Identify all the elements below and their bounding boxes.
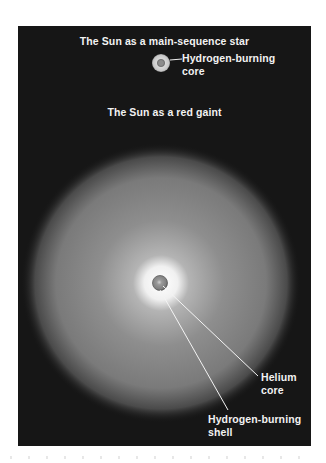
diagram-panel: The Sun as a main-sequence star Hydrogen… (18, 26, 311, 446)
hydrogen-burning-core-label: Hydrogen-burning core (182, 52, 275, 78)
helium-core-label-line1: Helium (261, 371, 297, 384)
main-sequence-hydrogen-core (158, 60, 165, 67)
hydrogen-core-leader-line (170, 59, 182, 60)
helium-core-label-line2: core (261, 384, 297, 397)
red-giant-title: The Sun as a red gaint (18, 106, 311, 119)
main-sequence-title: The Sun as a main-sequence star (18, 35, 311, 48)
hydrogen-burning-shell-label-line2: shell (208, 426, 301, 439)
red-giant (21, 143, 301, 423)
main-sequence-sun (152, 54, 182, 72)
hydrogen-burning-core-label-line1: Hydrogen-burning (182, 52, 275, 65)
helium-core-label: Helium core (261, 371, 297, 397)
cropped-caption-fragment (10, 456, 316, 459)
figure-page: The Sun as a main-sequence star Hydrogen… (0, 0, 326, 463)
hydrogen-burning-core-label-line2: core (182, 65, 275, 78)
hydrogen-burning-shell-label-line1: Hydrogen-burning (208, 413, 301, 426)
hydrogen-burning-shell-label: Hydrogen-burning shell (208, 413, 301, 439)
